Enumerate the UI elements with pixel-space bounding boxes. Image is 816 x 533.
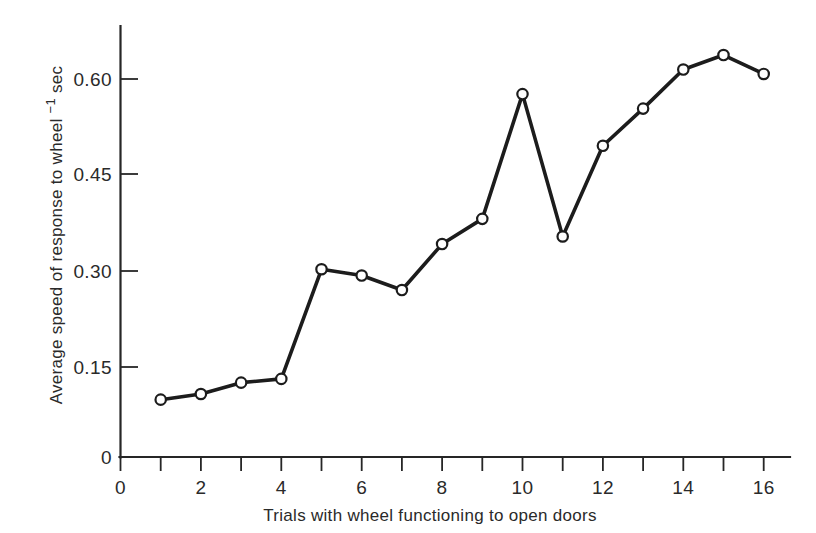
x-tick-label-4: 4	[276, 477, 287, 498]
data-point-1	[156, 394, 166, 404]
x-tick-label-16: 16	[753, 477, 775, 498]
data-point-11	[558, 231, 568, 241]
x-tick-label-10: 10	[512, 477, 534, 498]
data-point-12	[598, 141, 608, 151]
data-point-3	[236, 377, 246, 387]
data-point-2	[196, 389, 206, 399]
y-tick-label-030: 0.30	[73, 261, 112, 282]
data-point-6	[357, 270, 367, 280]
data-point-9	[477, 214, 487, 224]
data-series-markers	[156, 50, 769, 405]
y-tick-label-045: 0.45	[73, 164, 112, 185]
x-tick-label-14: 14	[672, 477, 694, 498]
x-tick-label-0: 0	[115, 477, 126, 498]
data-point-14	[678, 64, 688, 74]
y-axis-title: Average speed of response to wheel −1 se…	[43, 65, 67, 404]
x-axis-tick-labels: 0 2 4 6 8 10 12 14 16	[115, 477, 775, 498]
y-tick-label-060: 0.60	[73, 69, 112, 90]
x-axis-ticks	[121, 457, 764, 471]
y-axis-title-exponent: −1	[43, 98, 58, 113]
data-point-5	[316, 264, 326, 274]
y-tick-label-015: 0.15	[73, 357, 112, 378]
x-tick-label-6: 6	[356, 477, 367, 498]
y-axis-ticks	[121, 79, 138, 457]
data-point-13	[638, 103, 648, 113]
x-tick-label-12: 12	[592, 477, 614, 498]
data-point-7	[397, 285, 407, 295]
y-tick-label-0: 0	[101, 447, 112, 468]
data-point-10	[517, 89, 527, 99]
data-series-line	[161, 55, 764, 400]
data-point-4	[276, 374, 286, 384]
x-tick-label-2: 2	[195, 477, 206, 498]
x-axis-title: Trials with wheel functioning to open do…	[263, 506, 597, 525]
line-chart: 0 0.15 0.30 0.45 0.60	[0, 0, 816, 533]
y-axis-title-unit: sec	[47, 65, 66, 98]
y-axis-title-main: Average speed of response to wheel	[47, 113, 66, 404]
data-point-15	[718, 50, 728, 60]
y-axis-tick-labels: 0 0.15 0.30 0.45 0.60	[73, 69, 112, 468]
data-point-8	[437, 239, 447, 249]
data-point-16	[759, 69, 769, 79]
x-tick-label-8: 8	[437, 477, 448, 498]
figure-container: 0 0.15 0.30 0.45 0.60	[0, 0, 816, 533]
